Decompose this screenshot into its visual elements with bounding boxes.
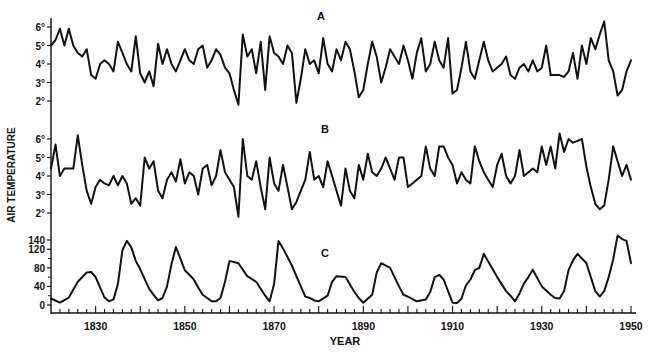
x-axis-label: YEAR: [330, 335, 361, 347]
y-tick-label: 6°: [35, 134, 45, 145]
x-tick-label: 1870: [262, 320, 286, 332]
y-tick-label: 80: [34, 263, 46, 274]
y-tick-label: 2°: [35, 96, 45, 107]
y-tick-label: 4°: [35, 171, 45, 182]
x-tick-label: 1890: [352, 320, 376, 332]
y-tick-label: 4°: [35, 59, 45, 70]
x-tick-label: 1910: [441, 320, 465, 332]
y-tick-label: 3°: [35, 78, 45, 89]
series-a-line: [51, 22, 631, 105]
x-tick-label: 1850: [173, 320, 197, 332]
panel-label-a: A: [317, 10, 325, 22]
series-b-line: [51, 133, 631, 216]
y-tick-label: 140: [28, 235, 45, 246]
panel-label-c: C: [321, 247, 329, 259]
x-tick-label: 1950: [619, 320, 643, 332]
series-c-line: [51, 235, 631, 303]
chart-figure: AIR TEMPERATURE YEAR A B C 2°3°4°5°6°2°3…: [0, 0, 655, 358]
y-tick-label: 5°: [35, 153, 45, 164]
x-tick-label: 1930: [530, 320, 554, 332]
y-axis-label: AIR TEMPERATURE: [6, 127, 17, 223]
x-tick-label: 1830: [84, 320, 108, 332]
y-tick-label: 6°: [35, 22, 45, 33]
panel-label-b: B: [321, 123, 329, 135]
chart-svg: AIR TEMPERATURE YEAR A B C 2°3°4°5°6°2°3…: [0, 0, 655, 358]
y-tick-label: 40: [34, 281, 46, 292]
series-lines: [51, 22, 631, 304]
y-tick-label: 5°: [35, 41, 45, 52]
y-tick-label: 3°: [35, 190, 45, 201]
y-tick-label: 0: [39, 300, 45, 311]
y-tick-label: 2°: [35, 208, 45, 219]
